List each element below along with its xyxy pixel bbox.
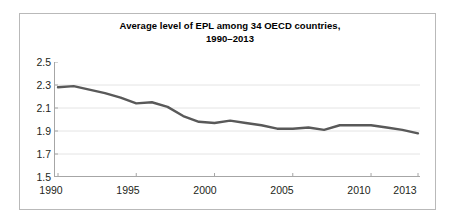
x-tick-label-2005: 2005 <box>259 185 305 196</box>
x-tick-label-2000: 2000 <box>182 185 228 196</box>
line-chart-svg <box>54 62 420 177</box>
data-series-line <box>58 86 418 133</box>
plot-area <box>54 62 420 177</box>
chart-figure: Average level of EPL among 34 OECD count… <box>0 0 455 224</box>
x-tick-label-2010: 2010 <box>336 185 382 196</box>
x-tick-label-2013: 2013 <box>382 185 428 196</box>
x-tick-label-1990: 1990 <box>28 185 74 196</box>
x-tick-label-1995: 1995 <box>105 185 151 196</box>
